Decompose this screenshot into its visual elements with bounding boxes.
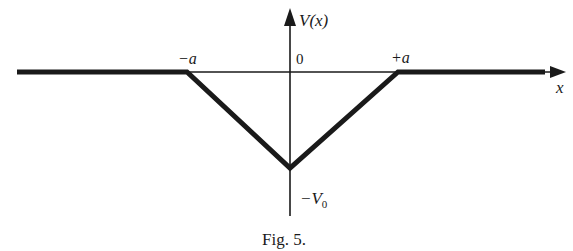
- neg-v0-label: −V0: [300, 189, 328, 210]
- x-axis-arrow-icon: [550, 66, 566, 78]
- neg-v0-main: −V: [300, 189, 324, 208]
- y-axis-arrow-icon: [284, 8, 296, 26]
- neg-a-label: −a: [178, 50, 197, 67]
- potential-diagram: V(x) 0 −a +a x −V0 Fig. 5.: [0, 0, 573, 251]
- potential-curve: [17, 72, 545, 168]
- neg-v0-subscript: 0: [322, 198, 328, 210]
- x-axis-label: x: [555, 78, 564, 97]
- pos-a-label: +a: [391, 49, 410, 66]
- figure-caption: Fig. 5.: [262, 230, 306, 249]
- y-axis-label: V(x): [299, 11, 329, 30]
- origin-label: 0: [296, 51, 304, 67]
